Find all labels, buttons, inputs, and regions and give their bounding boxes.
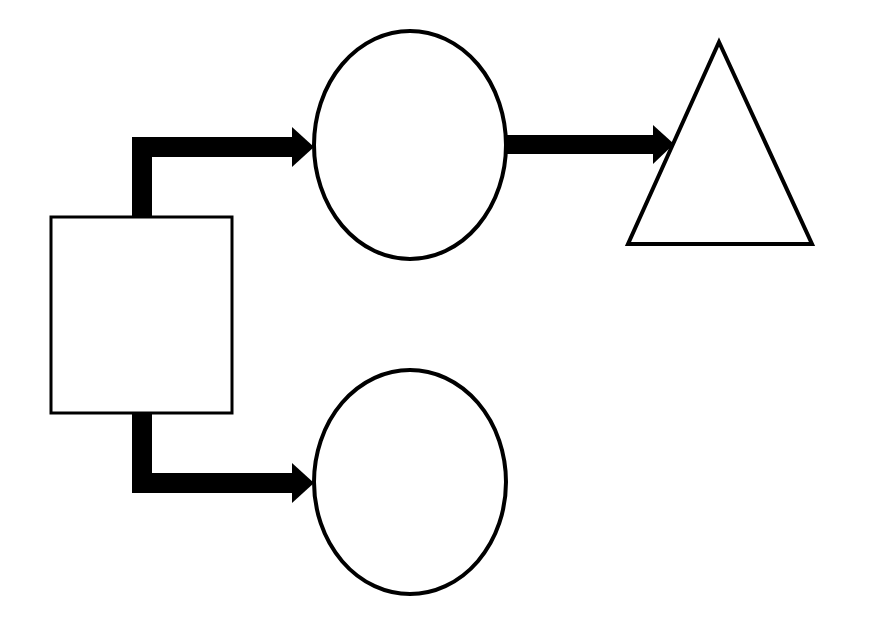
arrow-top-ellipse-to-triangle [505, 125, 674, 164]
flow-diagram [0, 0, 869, 630]
arrow-shaft [132, 413, 294, 493]
arrow-shaft [505, 135, 657, 154]
source-rectangle [51, 217, 232, 413]
top-ellipse [314, 31, 506, 259]
arrow-rect-to-top-ellipse [132, 127, 314, 216]
arrow-head [292, 463, 314, 503]
arrow-rect-to-bottom-ellipse [132, 413, 314, 503]
bottom-ellipse [314, 370, 506, 594]
arrow-shaft [132, 137, 294, 216]
arrow-head [292, 127, 314, 167]
